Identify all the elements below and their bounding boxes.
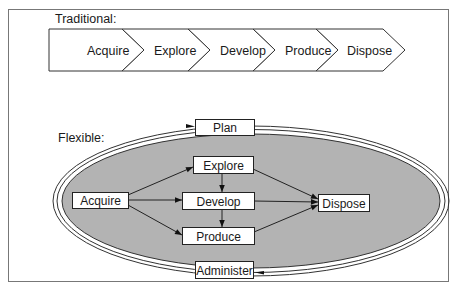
flexible-label: Flexible: — [58, 131, 105, 145]
node-label-administer: Administer — [196, 264, 253, 278]
chevron-label-dispose: Dispose — [347, 44, 392, 58]
lifecycle-diagram: Traditional: Acquire Explore Develop Pro… — [0, 0, 458, 287]
chevron-label-explore: Explore — [154, 44, 196, 58]
node-label-produce: Produce — [196, 230, 241, 244]
node-label-develop: Develop — [196, 195, 240, 209]
chevron-label-produce: Produce — [285, 44, 332, 58]
node-label-acquire: Acquire — [80, 194, 121, 208]
chevron-label-acquire: Acquire — [87, 44, 129, 58]
traditional-label: Traditional: — [55, 12, 116, 26]
node-label-explore: Explore — [203, 159, 244, 173]
node-label-dispose: Dispose — [322, 197, 366, 211]
chevron-label-develop: Develop — [220, 44, 266, 58]
node-label-plan: Plan — [213, 121, 237, 135]
